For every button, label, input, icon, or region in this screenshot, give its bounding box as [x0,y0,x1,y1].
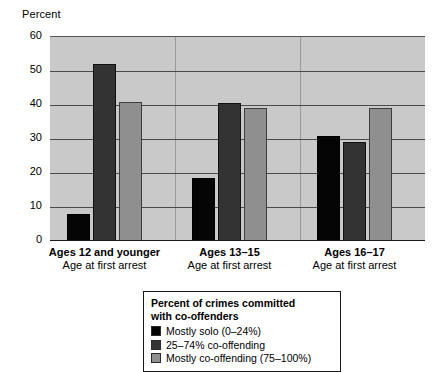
bar-2-3 [244,108,267,241]
y-tick-label-50: 50 [8,64,42,75]
legend: Percent of crimes committed with co-offe… [143,291,341,372]
y-tick-label-40: 40 [8,98,42,109]
category-label-3: Ages 16–17Age at first arrest [270,246,440,272]
bar-2-1 [192,178,215,241]
bar-1-1 [67,214,90,241]
bar-3-2 [343,142,366,241]
bars-layer [50,37,425,241]
y-tick-label-20: 20 [8,166,42,177]
y-tick-label-60: 60 [8,30,42,41]
x-axis-baseline [50,240,425,241]
legend-item-mid-cooffending: 25–74% co-offending [151,339,333,352]
legend-title-line-1: Percent of crimes committed [151,297,295,309]
y-tick-label-10: 10 [8,200,42,211]
legend-title-line-2: with co-offenders [151,310,239,322]
plot-area [50,36,425,241]
bar-3-3 [369,108,392,241]
bar-3-1 [317,136,340,241]
category-name-3: Ages 16–17 [270,246,440,259]
legend-item-mostly-cooffending: Mostly co-offending (75–100%) [151,352,333,365]
bar-2-2 [218,103,241,241]
legend-swatch-mostly-cooffending [151,353,161,363]
category-sublabel-3: Age at first arrest [270,259,440,272]
y-axis-title: Percent [22,8,61,20]
bar-1-3 [119,102,142,241]
legend-label-mostly-solo: Mostly solo (0–24%) [166,325,261,338]
legend-title: Percent of crimes committed with co-offe… [151,297,333,322]
y-tick-label-0: 0 [8,234,42,245]
y-tick-label-30: 30 [8,132,42,143]
legend-swatch-mid-cooffending [151,340,161,350]
bar-1-2 [93,64,116,241]
legend-swatch-mostly-solo [151,326,161,336]
legend-label-mid-cooffending: 25–74% co-offending [166,339,265,352]
legend-item-mostly-solo: Mostly solo (0–24%) [151,325,333,338]
legend-label-mostly-cooffending: Mostly co-offending (75–100%) [166,352,311,365]
